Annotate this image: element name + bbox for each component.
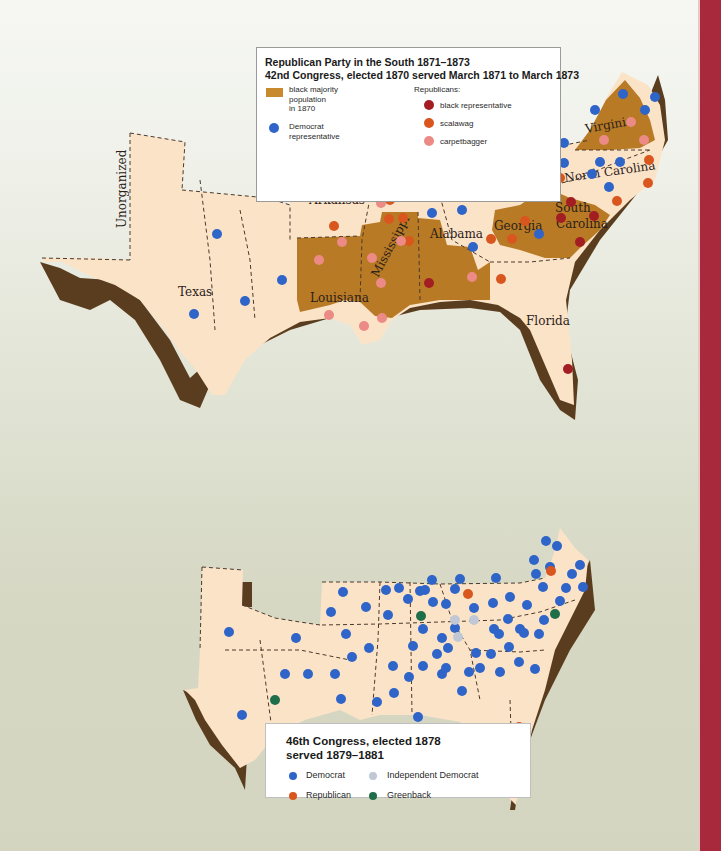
carpetbagger-dot-icon <box>424 136 434 146</box>
scalawag-dot-icon <box>424 118 434 128</box>
legend-bottom-title: 46th Congress, elected 1878 served 1879–… <box>286 734 441 762</box>
democrat-dot-icon <box>269 123 279 133</box>
legend-46th-congress: 46th Congress, elected 1878 served 1879–… <box>265 723 531 798</box>
democrat-label: Democrat <box>306 770 345 780</box>
scalawag-label: scalawag <box>440 119 473 129</box>
democrat-dot-icon <box>289 772 297 780</box>
independent-democrat-dot-icon <box>369 772 377 780</box>
label-florida: Florida <box>526 314 570 328</box>
legend-42nd-congress: Republican Party in the South 1871–1873 … <box>256 47 561 202</box>
legend-title-line1: Republican Party in the South 1871–1873 <box>265 56 579 69</box>
independent-democrat-label: Independent Democrat <box>387 770 479 780</box>
label-louisiana: Louisiana <box>310 291 369 305</box>
black-representative-dot-icon <box>424 100 434 110</box>
legend-bottom-title-line1: 46th Congress, elected 1878 <box>286 734 441 748</box>
legend-title: Republican Party in the South 1871–1873 … <box>265 56 579 82</box>
republicans-heading: Republicans: <box>414 85 460 95</box>
legend-title-line2: 42nd Congress, elected 1870 served March… <box>265 69 579 82</box>
black-representative-label: black representative <box>440 101 512 111</box>
black-majority-label: black majority population in 1870 <box>289 85 338 114</box>
greenback-label: Greenback <box>387 790 431 800</box>
black-majority-swatch <box>266 88 283 97</box>
label-alabama: Alabama <box>429 227 483 241</box>
legend-bottom-title-line2: served 1879–1881 <box>286 748 441 762</box>
democrat-label: Democrat representative <box>289 122 340 141</box>
label-unorganized: Unorganized <box>115 149 129 228</box>
republican-label: Republican <box>306 790 351 800</box>
greenback-dot-icon <box>369 792 377 800</box>
carpetbagger-label: carpetbagger <box>440 137 487 147</box>
label-texas: Texas <box>178 285 212 299</box>
republican-dot-icon <box>289 792 297 800</box>
